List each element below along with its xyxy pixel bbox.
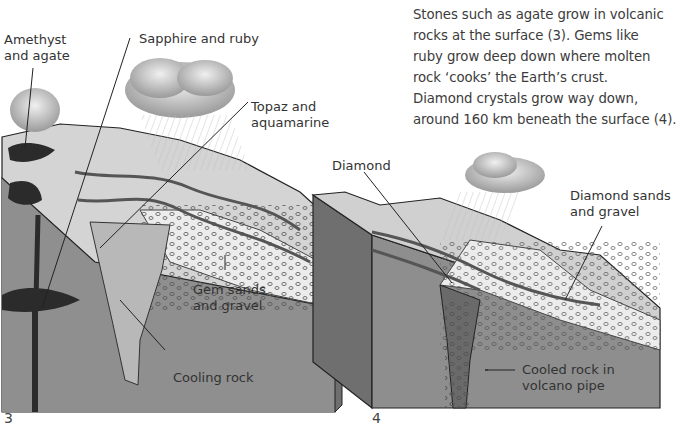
caption-line: Stones such as agate grow in volcanic [413, 4, 682, 25]
caption-line: rocks at the surface (3). Gems like [413, 25, 682, 46]
cloud-icon [465, 152, 545, 193]
label-diamond-sands: Diamond sands and gravel [570, 188, 671, 220]
caption-line: ruby grow deep down where molten [413, 46, 682, 67]
label-line: aquamarine [251, 115, 329, 131]
label-amethyst-agate: Amethyst and agate [4, 32, 70, 64]
caption-paragraph: Stones such as agate grow in volcanic ro… [413, 4, 682, 130]
caption-line: rock ‘cooks’ the Earth’s crust. [413, 67, 682, 88]
label-line: and gravel [570, 204, 671, 220]
label-line: Gem sands [193, 282, 266, 298]
label-line: Amethyst [4, 32, 70, 48]
label-sapphire-ruby: Sapphire and ruby [139, 31, 259, 47]
label-gem-sands: Gem sands and gravel [193, 282, 266, 314]
cloud-icon [125, 58, 235, 118]
label-cooled-rock: Cooled rock in volcano pipe [522, 362, 615, 394]
label-line: Cooled rock in [522, 362, 615, 378]
label-line: Topaz and [251, 99, 329, 115]
figure-number-4: 4 [372, 410, 381, 426]
label-line: volcano pipe [522, 378, 615, 394]
label-cooling-rock: Cooling rock [173, 370, 254, 386]
caption-line: Diamond crystals grow way down, [413, 88, 682, 109]
label-line: and agate [4, 48, 70, 64]
label-diamond: Diamond [332, 158, 391, 174]
label-line: and gravel [193, 298, 266, 314]
figure-number-3: 3 [4, 410, 13, 426]
label-line: Diamond sands [570, 188, 671, 204]
caption-line: around 160 km beneath the surface (4). [413, 109, 682, 130]
label-topaz-aquamarine: Topaz and aquamarine [251, 99, 329, 131]
